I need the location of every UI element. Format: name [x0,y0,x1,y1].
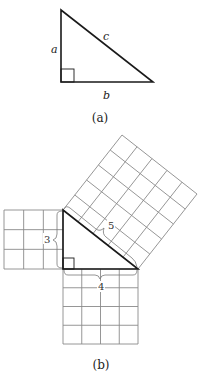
right-angle-marker-a [61,69,74,82]
label-5: 5 [108,220,114,231]
figure-a: a c b (a) [51,10,153,125]
right-triangle-a [61,10,153,82]
grid-line [78,147,137,222]
figure-b: 3 4 5 (b) [4,135,197,372]
label-4: 4 [98,281,104,292]
square-on-hypotenuse [63,135,197,269]
grid-line [93,159,152,234]
grid-line [123,182,182,257]
right-angle-marker-b [63,258,74,269]
grid-line [110,150,185,209]
grid-line [98,165,173,224]
caption-b: (b) [92,358,109,372]
label-a: a [51,43,58,56]
label-c: c [103,30,109,43]
pythagorean-figure: a c b (a) 3 4 5 (b) [0,0,204,376]
grid-line [108,170,167,245]
label-b: b [103,89,110,102]
caption-a: (a) [92,111,109,125]
label-3: 3 [44,234,50,245]
brace-short-leg [53,211,62,268]
